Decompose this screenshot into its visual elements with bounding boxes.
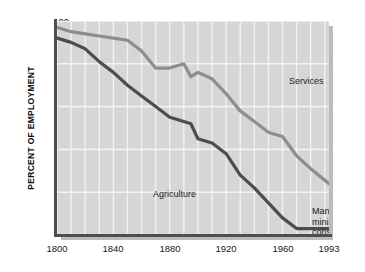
agriculture-boundary-line	[57, 38, 329, 228]
x-tick-label-1920: 1920	[206, 243, 246, 254]
x-tick-label-1840: 1840	[93, 243, 133, 254]
series-label-agriculture: Agriculture	[153, 189, 196, 200]
x-tick-label-1993: 1993	[309, 243, 349, 254]
horizontal-gridlines	[57, 21, 329, 192]
series-label-services: Services	[289, 76, 324, 87]
x-axis-line	[54, 234, 332, 237]
plot-area: Services Agriculture Manufacturing, mini…	[57, 21, 329, 235]
plot-svg	[57, 21, 329, 235]
y-axis-title: PERCENT OF EMPLOYMENT	[26, 48, 36, 208]
series-label-manufacturing: Manufacturing, mining, and construction	[312, 206, 329, 235]
employment-share-chart: PERCENT OF EMPLOYMENT 100 80 60 40 20 0 …	[0, 0, 365, 272]
x-tick-label-1880: 1880	[150, 243, 190, 254]
services-boundary-line	[57, 27, 329, 183]
y-axis-line	[54, 19, 57, 237]
x-tick-label-1960: 1960	[263, 243, 303, 254]
x-tick-label-1800: 1800	[37, 243, 77, 254]
vertical-gridlines	[57, 21, 325, 235]
